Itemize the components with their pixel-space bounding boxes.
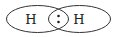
atom-label-right: H (73, 12, 84, 27)
atom-label-left: H (25, 12, 36, 27)
h2-lewis-diagram: H H (0, 0, 117, 37)
shared-electron-top (57, 15, 60, 18)
left-atom-orbit (7, 6, 69, 33)
shared-electron-bottom (57, 21, 60, 24)
